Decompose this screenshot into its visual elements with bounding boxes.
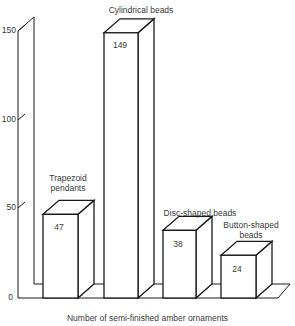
value-label-trapezoid: 47 bbox=[47, 222, 71, 232]
category-label-trapezoid: Trapezoid pendants bbox=[38, 173, 98, 193]
bar-trapezoid bbox=[43, 200, 94, 298]
category-label-disc: Disc-shaped beads bbox=[155, 208, 245, 218]
bar-disc bbox=[163, 216, 212, 298]
value-label-disc: 38 bbox=[166, 239, 190, 249]
ytick-100: 100 bbox=[0, 114, 16, 124]
y-axis bbox=[18, 17, 34, 298]
ytick-50: 50 bbox=[0, 202, 16, 212]
value-label-cylindrical: 149 bbox=[108, 40, 132, 50]
ytick-150: 150 bbox=[0, 25, 16, 35]
bar-cylindrical bbox=[104, 19, 154, 298]
ytick-0: 0 bbox=[0, 292, 13, 302]
bars bbox=[43, 19, 272, 298]
tick-100 bbox=[18, 114, 25, 120]
category-label-button: Button-shaped beads bbox=[216, 220, 286, 240]
tick-50 bbox=[18, 202, 25, 208]
x-axis-label: Number of semi-finished amber ornaments bbox=[0, 313, 295, 323]
tick-150 bbox=[18, 25, 25, 31]
chart-canvas bbox=[0, 0, 295, 326]
category-label-cylindrical: Cylindrical beads bbox=[96, 5, 186, 15]
value-label-button: 24 bbox=[225, 264, 249, 274]
